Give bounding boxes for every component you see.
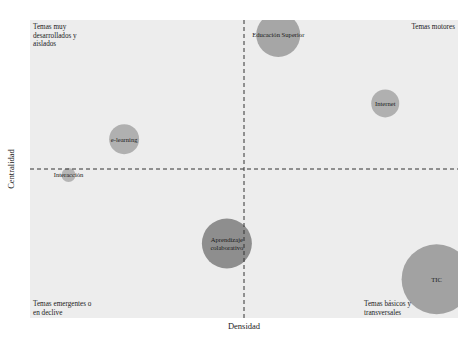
bubble-label: TIC	[431, 276, 442, 283]
bubble-label: Aprendizajecolaborativo	[210, 236, 244, 251]
x-axis-label: Densidad	[228, 321, 261, 331]
y-axis-label: Centralidad	[6, 148, 16, 188]
strategic-diagram: Educación SuperiorInternete-learningInte…	[0, 0, 476, 345]
quadrant-label-top-right: Temas motores	[411, 23, 455, 31]
bubble-label: Educación Superior	[252, 31, 305, 38]
bubble-label: Interacción	[54, 171, 84, 178]
bubble-label: Internet	[375, 100, 396, 107]
bubble-label: e-learning	[111, 136, 138, 143]
